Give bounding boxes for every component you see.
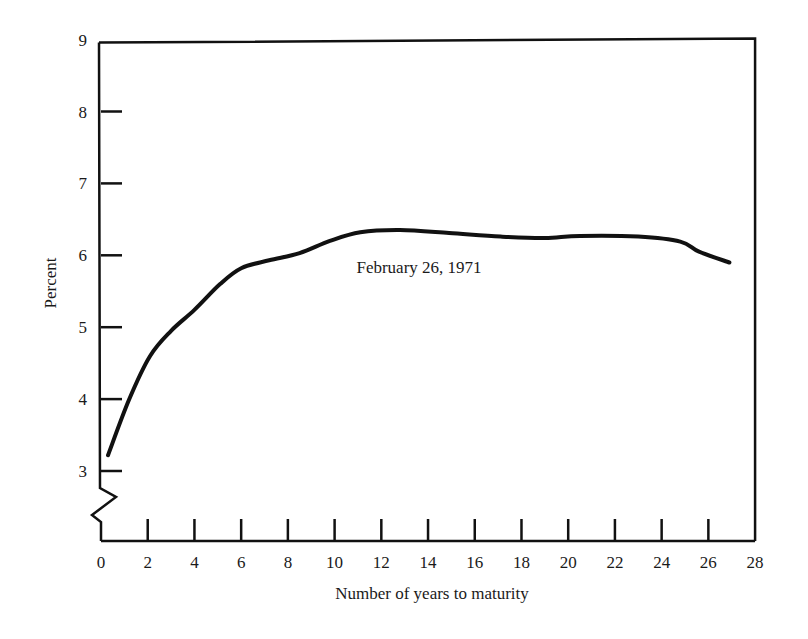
y-tick-label: 8 <box>79 103 88 122</box>
x-tick-label: 6 <box>237 553 246 572</box>
y-tick-label: 7 <box>79 174 88 193</box>
x-tick-label: 28 <box>747 553 764 572</box>
y-axis-title: Percent <box>41 257 60 308</box>
x-tick-label: 26 <box>700 553 717 572</box>
x-tick-label: 20 <box>560 553 577 572</box>
plot-border <box>99 39 755 541</box>
x-tick-label: 4 <box>190 553 199 572</box>
x-axis-title: Number of years to maturity <box>335 584 529 603</box>
x-tick-label: 8 <box>284 553 293 572</box>
y-tick-label: 6 <box>79 246 88 265</box>
x-tick-label: 2 <box>143 553 152 572</box>
x-tick-label: 24 <box>653 553 671 572</box>
x-tick-label: 16 <box>466 553 483 572</box>
y-tick-label: 9 <box>79 31 88 50</box>
x-tick-label: 10 <box>326 553 343 572</box>
x-tick-label: 12 <box>373 553 390 572</box>
x-tick-label: 18 <box>513 553 530 572</box>
curve-date-annotation: February 26, 1971 <box>356 258 481 277</box>
yield-curve-chart: 3456789 0246810121416182022242628 Februa… <box>0 0 808 639</box>
x-tick-label: 0 <box>97 553 106 572</box>
x-tick-label: 22 <box>606 553 623 572</box>
y-tick-label: 5 <box>79 318 88 337</box>
plot-frame <box>92 39 755 541</box>
x-axis: 0246810121416182022242628 <box>97 519 764 572</box>
y-axis-line-with-break <box>92 43 116 541</box>
x-tick-label: 14 <box>420 553 438 572</box>
y-tick-label: 4 <box>79 390 88 409</box>
y-tick-label: 3 <box>79 462 88 481</box>
